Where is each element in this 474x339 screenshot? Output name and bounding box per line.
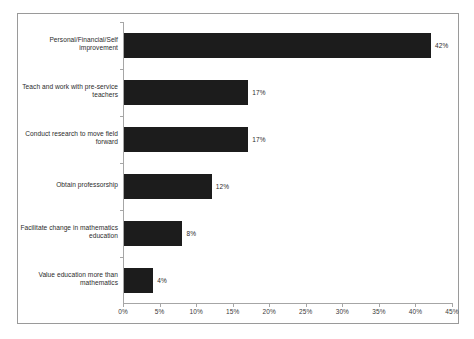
x-axis-tick — [160, 303, 161, 307]
category-label: Obtain professorship — [3, 181, 118, 190]
category-label-line: improvement — [3, 44, 118, 53]
x-axis-tick — [415, 303, 416, 307]
bar-value-label: 12% — [216, 183, 229, 190]
bar-value-label: 42% — [435, 42, 448, 49]
x-axis-tick-label: 20% — [254, 308, 284, 315]
category-axis-line — [123, 303, 453, 304]
bar — [124, 33, 431, 58]
y-axis-tick — [120, 257, 123, 258]
category-label: Personal/Financial/Selfimprovement — [3, 36, 118, 53]
category-label-line: Value education more than — [3, 271, 118, 280]
bar — [124, 127, 248, 152]
x-axis-tick — [233, 303, 234, 307]
x-axis-tick-label: 25% — [291, 308, 321, 315]
category-label-line: Facilitate change in mathematics — [3, 224, 118, 233]
y-axis-tick — [120, 163, 123, 164]
x-axis-tick-label: 0% — [108, 308, 138, 315]
y-axis-tick — [120, 22, 123, 23]
x-axis-tick — [306, 303, 307, 307]
bar-value-label: 17% — [252, 89, 265, 96]
x-axis-tick — [196, 303, 197, 307]
bar — [124, 268, 153, 293]
bar-value-label: 17% — [252, 136, 265, 143]
category-label-line: education — [3, 232, 118, 241]
category-label-line: Teach and work with pre-service — [3, 83, 118, 92]
category-label: Facilitate change in mathematicseducatio… — [3, 224, 118, 241]
plot-area: 0%5%10%15%20%25%30%35%40%45% 42%17%17%12… — [0, 0, 474, 339]
x-axis-tick — [379, 303, 380, 307]
bar — [124, 80, 248, 105]
chart-figure: 0%5%10%15%20%25%30%35%40%45% 42%17%17%12… — [0, 0, 474, 339]
bar — [124, 221, 182, 246]
x-axis-tick — [452, 303, 453, 307]
x-axis-tick-label: 30% — [327, 308, 357, 315]
category-label: Value education more thanmathematics — [3, 271, 118, 288]
category-label-line: Conduct research to move field — [3, 130, 118, 139]
category-label-line: teachers — [3, 91, 118, 100]
category-label-line: mathematics — [3, 279, 118, 288]
x-axis-tick-label: 45% — [437, 308, 467, 315]
y-axis-tick — [120, 210, 123, 211]
x-axis-tick-label: 5% — [145, 308, 175, 315]
x-axis-tick — [269, 303, 270, 307]
x-axis-tick-label: 35% — [364, 308, 394, 315]
bar — [124, 174, 212, 199]
x-axis-tick — [123, 303, 124, 307]
category-label: Teach and work with pre-serviceteachers — [3, 83, 118, 100]
category-label-line: forward — [3, 138, 118, 147]
y-axis-tick — [120, 116, 123, 117]
x-axis-tick-label: 15% — [218, 308, 248, 315]
y-axis-tick — [120, 69, 123, 70]
x-axis-tick-label: 40% — [400, 308, 430, 315]
value-axis-line — [123, 22, 124, 303]
x-axis-tick — [342, 303, 343, 307]
category-label-line: Obtain professorship — [3, 181, 118, 190]
bar-value-label: 8% — [186, 230, 196, 237]
x-axis-tick-label: 10% — [181, 308, 211, 315]
category-label: Conduct research to move fieldforward — [3, 130, 118, 147]
bar-value-label: 4% — [157, 277, 167, 284]
category-label-line: Personal/Financial/Self — [3, 36, 118, 45]
